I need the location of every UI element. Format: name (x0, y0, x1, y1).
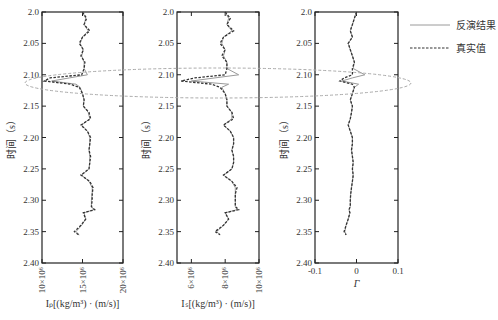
y-tick-label: 2.10 (158, 70, 174, 80)
true-value-line (181, 12, 239, 235)
y-tick-label: 2.35 (23, 227, 39, 237)
x-tick-label: 8×10⁶ (220, 267, 230, 289)
x-axis-title: Iₚ[(kg/m³) · (m/s)] (46, 298, 120, 310)
y-tick-label: 2.30 (296, 195, 312, 205)
legend: 反演结果 真实值 (410, 19, 496, 54)
y-tick-label: 2.20 (158, 133, 174, 143)
inverted-result-line (342, 12, 365, 235)
x-tick-label: 20×10⁶ (118, 267, 128, 293)
y-tick-label: 2.35 (296, 227, 312, 237)
y-axis-title: 时间（s） (5, 115, 17, 159)
y-axis-title: 时间（s） (278, 115, 290, 159)
panel-Is: 2.02.052.102.152.202.252.302.352.40时间（s）… (140, 7, 264, 310)
y-tick-label: 2.15 (158, 101, 174, 111)
y-tick-label: 2.15 (296, 101, 312, 111)
y-tick-label: 2.40 (158, 258, 174, 268)
x-tick-label: 10×10⁶ (37, 267, 47, 293)
x-tick-label: 0.1 (392, 266, 403, 276)
true-value-line (44, 12, 94, 235)
y-tick-label: 2.10 (296, 70, 312, 80)
y-tick-label: 2.0 (163, 7, 175, 17)
y-tick-label: 2.25 (296, 164, 312, 174)
y-tick-label: 2.25 (158, 164, 174, 174)
axes-frame (315, 12, 398, 263)
axes-frame (177, 12, 259, 263)
inverted-result-line (191, 12, 238, 235)
x-tick-label: 10×10⁶ (254, 267, 264, 293)
x-axis-title: Γ (353, 278, 360, 289)
x-axis-title: Iₛ[(kg/m³) · (m/s)] (181, 298, 255, 310)
x-tick-label: -0.1 (308, 266, 322, 276)
y-tick-label: 2.0 (28, 7, 40, 17)
y-tick-label: 2.10 (23, 70, 39, 80)
x-tick-label: 0 (354, 266, 359, 276)
y-tick-label: 2.0 (301, 7, 313, 17)
y-tick-label: 2.15 (23, 101, 39, 111)
legend-label-true: 真实值 (456, 42, 486, 54)
y-tick-label: 2.05 (158, 38, 174, 48)
panel-Ip: 2.02.052.102.152.202.252.302.352.40时间（s）… (5, 7, 128, 310)
panel-Gamma: 2.02.052.102.152.202.252.302.352.40时间（s）… (278, 7, 404, 289)
y-tick-label: 2.20 (296, 133, 312, 143)
y-tick-label: 2.25 (23, 164, 39, 174)
legend-label-inverted: 反演结果 (456, 19, 496, 31)
y-tick-label: 2.30 (158, 195, 174, 205)
y-tick-label: 2.20 (23, 133, 39, 143)
x-tick-label: 15×10⁶ (78, 267, 88, 293)
x-tick-label: 6×10⁶ (186, 267, 196, 289)
panels: 2.02.052.102.152.202.252.302.352.40时间（s）… (5, 7, 404, 310)
y-tick-label: 2.30 (23, 195, 39, 205)
inverted-result-line (52, 12, 94, 235)
y-tick-label: 2.05 (23, 38, 39, 48)
impedance-inversion-figure: 2.02.052.102.152.202.252.302.352.40时间（s）… (0, 0, 498, 320)
y-tick-label: 2.05 (296, 38, 312, 48)
y-axis-title: 时间（s） (140, 115, 152, 159)
y-tick-label: 2.35 (158, 227, 174, 237)
y-tick-label: 2.40 (23, 258, 39, 268)
true-value-line (340, 12, 357, 235)
